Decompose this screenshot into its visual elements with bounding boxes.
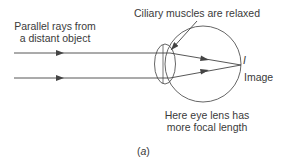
- rays-label-line1: Parallel rays from: [10, 20, 100, 32]
- ciliary-muscles-label: Ciliary muscles are relaxed: [134, 7, 260, 19]
- image-label: Image: [244, 71, 273, 83]
- caption-text: (a): [137, 145, 150, 157]
- ray-arrow-icon: [200, 56, 209, 62]
- rays-label: Parallel rays from a distant object: [10, 20, 100, 44]
- ray-arrow-icon: [56, 50, 64, 56]
- ray-arrow-icon: [200, 69, 209, 75]
- focal-length-line1: Here eye lens has: [157, 109, 257, 121]
- eyeball-outline: [165, 26, 241, 102]
- ciliary-pointer-arrow: [171, 21, 197, 50]
- image-symbol: I: [243, 54, 246, 66]
- ray-arrow-icon: [56, 75, 64, 81]
- rays-label-line2: a distant object: [10, 32, 100, 44]
- focal-length-label: Here eye lens has more focal length: [157, 109, 257, 133]
- focal-length-line2: more focal length: [157, 121, 257, 133]
- figure-caption: (a): [137, 145, 150, 157]
